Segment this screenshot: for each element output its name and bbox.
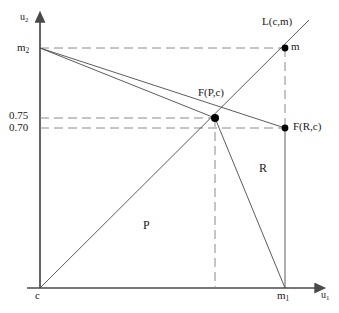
y-tick-075: 0.75 bbox=[9, 110, 28, 121]
x-axis-label: u1 bbox=[321, 290, 329, 301]
point-m bbox=[282, 45, 289, 52]
x-tick-m1: m1 bbox=[277, 290, 289, 302]
y-axis-label: u2 bbox=[20, 12, 28, 23]
point-label-F-R-c: F(R,c) bbox=[293, 121, 321, 132]
line-m2-to-FPc bbox=[40, 48, 215, 118]
line-FPc-to-m1 bbox=[215, 118, 285, 288]
origin-label-c: c bbox=[35, 290, 40, 301]
construction-lines bbox=[40, 20, 309, 288]
region-label-R: R bbox=[259, 162, 267, 174]
line-m2-to-FRc bbox=[40, 48, 285, 128]
y-tick-070: 0.70 bbox=[9, 122, 28, 133]
region-label-P: P bbox=[143, 219, 150, 231]
diagram-svg bbox=[0, 0, 339, 313]
figure-canvas: u2 u1 m2 0.75 0.70 c m1 L(c,m) m F(P,c) … bbox=[0, 0, 339, 313]
point-label-m: m bbox=[291, 41, 300, 52]
curve-label-L-c-m: L(c,m) bbox=[262, 16, 292, 27]
y-tick-m2: m2 bbox=[17, 42, 29, 54]
point-label-F-P-c: F(P,c) bbox=[198, 87, 224, 98]
point-F-R-c bbox=[282, 125, 289, 132]
point-F-P-c bbox=[211, 114, 219, 122]
